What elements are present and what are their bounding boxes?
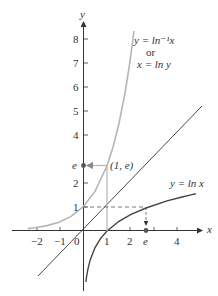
identity-line xyxy=(38,106,202,276)
x-axis-label: x xyxy=(206,223,212,235)
x-tick-1: 1 xyxy=(104,235,110,247)
y-tick-e: e xyxy=(72,159,77,171)
y-tick-4: 4 xyxy=(73,129,79,141)
y-axis-label: y xyxy=(79,8,85,20)
ln-curve-label: y = ln x xyxy=(169,177,204,189)
y-tick-8: 8 xyxy=(73,33,79,45)
y-tick-2: 2 xyxy=(73,177,79,189)
y-tick-1: 1 xyxy=(73,201,79,213)
x-tick-4: 4 xyxy=(174,235,180,247)
x-tick-0: 0 xyxy=(74,235,80,247)
inverse-ln-label-1: y = ln⁻¹x xyxy=(133,34,174,46)
y-axis xyxy=(83,22,88,291)
e-dot-y-axis xyxy=(81,163,86,168)
e-dot-x-axis xyxy=(144,228,149,233)
y-tick-7: 7 xyxy=(73,57,79,69)
inverse-ln-label-2: or xyxy=(146,46,156,58)
x-tick-neg1: −1 xyxy=(54,235,66,247)
x-tick-e: e xyxy=(143,235,148,247)
inverse-ln-label-3: x = ln y xyxy=(136,58,171,70)
x-tick-2: 2 xyxy=(127,235,133,247)
y-tick-5: 5 xyxy=(73,105,79,117)
ln-exp-graph: y x 8 7 6 5 4 e 2 1 −2 −1 0 1 2 e 4 (1, … xyxy=(0,0,218,296)
y-tick-6: 6 xyxy=(73,81,79,93)
inverse-ln-curve xyxy=(28,31,134,229)
point-1-e-label: (1, e) xyxy=(110,159,134,172)
x-tick-neg2: −2 xyxy=(31,235,43,247)
